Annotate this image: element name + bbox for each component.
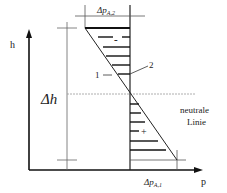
positive-region-hatching <box>130 104 166 150</box>
marker-2: 2 <box>149 60 154 70</box>
marker-1: 1 <box>95 70 100 80</box>
bottom-pressure-label: ΔpA,1 <box>143 177 162 188</box>
negative-region-hatching <box>85 28 130 74</box>
pressure-distribution-diagram: h p Δh ΔpA,2 ΔpA,1 neutrale Linie - + 1 … <box>0 0 227 193</box>
bottom-pressure-dimension <box>130 150 186 170</box>
neutral-line-label-line1: neutrale <box>180 105 209 115</box>
marker-2-leader <box>130 66 148 74</box>
y-axis-label: h <box>10 39 15 50</box>
minus-sign: - <box>114 33 118 45</box>
y-axis <box>26 29 32 170</box>
plus-sign: + <box>141 126 147 137</box>
delta-h-dimension <box>57 22 77 170</box>
top-pressure-dimension <box>75 5 145 28</box>
top-pressure-label: ΔpA,2 <box>96 5 115 16</box>
neutral-line-label-line2: Linie <box>187 117 206 127</box>
x-axis-label: p <box>201 176 206 187</box>
delta-h-label: Δh <box>40 91 57 107</box>
x-axis-arrow-icon <box>194 167 203 173</box>
y-axis-arrow-icon <box>26 29 32 38</box>
